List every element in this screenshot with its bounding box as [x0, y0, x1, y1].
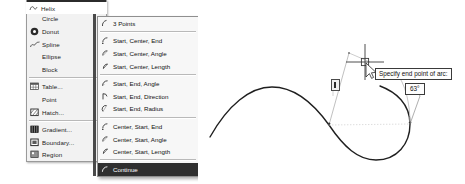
point-icon	[29, 94, 40, 105]
menu-item-ellipse-label: Ellipse	[40, 53, 61, 60]
menu-item-region-label: Region	[40, 151, 62, 158]
arc-start-end-angle-icon	[100, 78, 111, 89]
submenu-separator	[100, 74, 196, 76]
spline-icon	[29, 39, 40, 50]
submenu-item-start-center-angle-label: Start, Center, Angle	[111, 50, 167, 57]
submenu-item-center-start-end-label: Center, Start, End	[111, 123, 162, 130]
table-icon	[29, 81, 40, 92]
rubber-band-line-2	[349, 53, 370, 62]
menu-item-boundary-label: Boundary...	[40, 139, 74, 146]
arc-geometry	[198, 0, 465, 184]
arc-start-center-end-icon	[100, 35, 111, 46]
arc-3points-icon	[100, 18, 111, 29]
submenu-separator	[100, 31, 196, 33]
submenu-item-center-start-length-label: Center, Start, Length	[111, 148, 170, 155]
arc-center-start-end-icon	[100, 121, 111, 132]
menu-item-spline-label: Spline	[40, 41, 60, 48]
prompt-tooltip: Specify end point of arc:	[375, 68, 452, 80]
arc-start-center-angle-icon	[100, 48, 111, 59]
submenu-separator	[100, 159, 196, 161]
submenu-item-start-end-radius-label: Start, End, Radius	[111, 105, 163, 112]
arc-start-center-length-icon	[100, 61, 111, 72]
arc-center-start-angle-icon	[100, 134, 111, 145]
submenu-edge-bar	[93, 8, 96, 176]
submenu-item-start-center-length-label: Start, Center, Length	[111, 63, 170, 70]
submenu-item-center-start-length[interactable]: Center, Start, Length	[98, 145, 198, 158]
gradient-icon	[29, 124, 40, 135]
submenu-item-center-start-end[interactable]: Center, Start, End	[98, 120, 198, 133]
arc-curve-main	[210, 86, 410, 160]
submenu-separator	[100, 117, 196, 119]
submenu-item-3-points-label: 3 Points	[111, 20, 135, 27]
submenu-item-start-end-angle-label: Start, End, Angle	[111, 80, 159, 87]
menu-item-table-label: Table...	[40, 83, 63, 90]
arc-grip-marker[interactable]	[331, 79, 340, 91]
arc-center-start-length-icon	[100, 146, 111, 157]
submenu-item-start-end-angle[interactable]: Start, End, Angle	[98, 77, 198, 90]
arc-submenu[interactable]: 3 Points Start, Center, End Start, Cente…	[97, 16, 199, 177]
helix-icon	[28, 3, 39, 14]
ellipse-icon	[29, 51, 40, 62]
menu-item-hatch-label: Hatch...	[40, 109, 64, 116]
menu-item-helix-label: Helix	[39, 5, 55, 12]
boundary-icon	[29, 137, 40, 148]
screenshot-root: Helix Arc Circle Donut	[0, 0, 465, 184]
hatch-icon	[29, 107, 40, 118]
menu-item-gradient-label: Gradient...	[40, 126, 72, 133]
submenu-item-center-start-angle[interactable]: Center, Start, Angle	[98, 133, 198, 146]
region-icon	[29, 149, 40, 160]
circle-icon	[29, 13, 40, 24]
submenu-item-start-center-length[interactable]: Start, Center, Length	[98, 60, 198, 73]
submenu-item-3-points[interactable]: 3 Points	[98, 17, 198, 30]
submenu-item-continue[interactable]: Continue	[98, 163, 198, 176]
arc-continue-icon	[100, 164, 111, 175]
menu-item-donut-label: Donut	[40, 28, 59, 35]
menu-item-point-label: Point	[40, 96, 57, 103]
donut-icon	[29, 26, 40, 37]
submenu-item-start-end-direction-label: Start, End, Direction	[111, 93, 168, 100]
arc-start-end-radius-icon	[100, 103, 111, 114]
submenu-item-center-start-angle-label: Center, Start, Angle	[111, 136, 167, 143]
submenu-item-start-end-radius[interactable]: Start, End, Radius	[98, 103, 198, 116]
menu-item-block-label: Block	[40, 66, 58, 73]
node-marker-mid	[348, 52, 350, 54]
menu-item-helix[interactable]: Helix	[26, 2, 107, 14]
submenu-item-start-center-end[interactable]: Start, Center, End	[98, 35, 198, 48]
block-icon	[29, 64, 40, 75]
submenu-item-start-center-end-label: Start, Center, End	[111, 37, 162, 44]
arc-start-end-direction-icon	[100, 91, 111, 102]
submenu-item-continue-label: Continue	[111, 166, 138, 173]
submenu-item-start-center-angle[interactable]: Start, Center, Angle	[98, 47, 198, 60]
drawing-canvas[interactable]	[198, 0, 465, 184]
tracking-line	[329, 124, 410, 125]
angle-tooltip: 63°	[405, 83, 425, 95]
submenu-item-start-end-direction[interactable]: Start, End, Direction	[98, 90, 198, 103]
menu-item-circle-label: Circle	[40, 15, 58, 22]
